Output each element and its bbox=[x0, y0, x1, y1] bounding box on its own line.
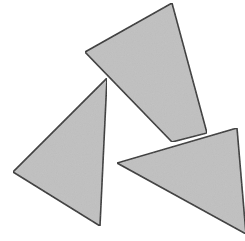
triangles-figure bbox=[0, 0, 245, 241]
figure-canvas bbox=[0, 0, 245, 241]
